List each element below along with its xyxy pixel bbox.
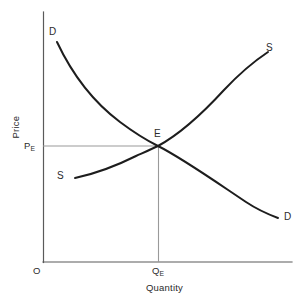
chart-canvas xyxy=(0,0,305,301)
supply-demand-chart: D D S S E O PE QE Price Quantity xyxy=(0,0,305,301)
supply-curve xyxy=(75,52,268,178)
origin-label: O xyxy=(33,266,41,276)
equilibrium-price-main: P xyxy=(24,140,31,151)
supply-curve-label-bottom: S xyxy=(57,171,64,181)
equilibrium-point-label: E xyxy=(154,129,161,139)
equilibrium-quantity-label: QE xyxy=(152,266,164,276)
equilibrium-price-label: PE xyxy=(24,141,35,151)
x-axis-title: Quantity xyxy=(146,283,183,293)
equilibrium-quantity-main: Q xyxy=(152,265,160,276)
demand-curve xyxy=(57,42,278,218)
supply-curve-label-top: S xyxy=(266,43,273,53)
equilibrium-quantity-subscript: E xyxy=(160,270,165,277)
demand-curve-label-bottom: D xyxy=(284,212,291,222)
demand-curve-label-top: D xyxy=(49,27,56,37)
y-axis-title: Price xyxy=(11,116,21,139)
equilibrium-price-subscript: E xyxy=(31,145,36,152)
